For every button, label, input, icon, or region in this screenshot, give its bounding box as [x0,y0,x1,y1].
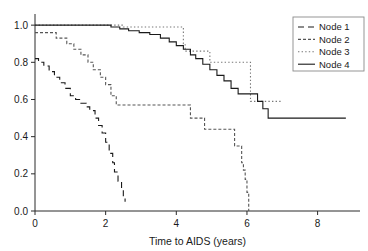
series-line-node-2 [35,33,249,211]
y-tick-label-0.0: 0.0 [14,206,28,217]
x-tick-label-2: 2 [103,218,109,229]
x-tick-label-4: 4 [174,218,180,229]
x-tick-label-0: 0 [32,218,38,229]
x-tick-label-6: 6 [244,218,250,229]
series-line-node-1 [35,59,125,202]
survival-curve-chart: 024680.00.20.40.60.81.0Time to AIDS (yea… [0,0,368,251]
y-tick-label-0.8: 0.8 [14,57,28,68]
x-tick-label-8: 8 [315,218,321,229]
x-axis-title: Time to AIDS (years) [149,235,246,247]
legend-label-node-4: Node 4 [319,59,350,70]
legend-label-node-1: Node 1 [319,21,350,32]
y-tick-label-0.4: 0.4 [14,131,28,142]
series-line-node-3 [35,25,282,101]
y-tick-label-0.6: 0.6 [14,94,28,105]
legend-label-node-2: Node 2 [319,34,350,45]
y-tick-label-1.0: 1.0 [14,20,28,31]
legend-label-node-3: Node 3 [319,46,350,57]
y-tick-label-0.2: 0.2 [14,168,28,179]
plot-area: 024680.00.20.40.60.81.0Time to AIDS (yea… [0,0,368,251]
